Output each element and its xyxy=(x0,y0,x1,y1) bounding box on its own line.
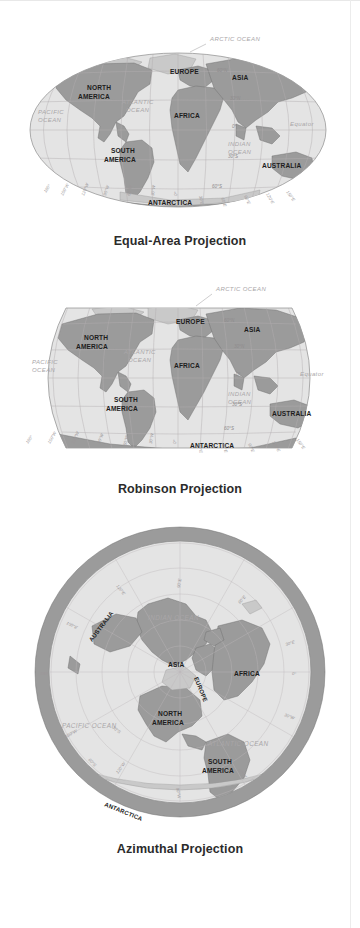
equator-label: Equator xyxy=(290,121,314,127)
latitude-label-30s: 30°S xyxy=(228,154,239,159)
africa-label: AFRICA xyxy=(234,670,260,677)
azimuthal-map[interactable]: INDIAN OCEAN PACIFIC OCEAN ATLANTIC OCEA… xyxy=(0,520,360,840)
indian-ocean-label: INDIAN OCEAN xyxy=(148,614,199,621)
atlantic-ocean-label-line2: OCEAN xyxy=(128,357,152,363)
arctic-ocean-leader xyxy=(190,44,206,52)
latitude-label-0: 0° xyxy=(236,372,241,377)
australia-label: AUSTRALIA xyxy=(262,162,302,169)
atlantic-ocean-label: ATLANTIC OCEAN xyxy=(207,740,269,747)
robinson-map[interactable]: ARCTIC OCEAN PACIFIC OCEAN ATLANTIC OCEA… xyxy=(0,278,360,478)
new-zealand-shape xyxy=(318,180,330,190)
pacific-ocean-label: PACIFIC OCEAN xyxy=(62,722,116,729)
south-america-label-line2: AMERICA xyxy=(104,156,136,163)
longitude-label-30e: 30°E xyxy=(197,443,204,453)
south-america-label-line2: AMERICA xyxy=(202,767,234,774)
north-america-label-line1: NORTH xyxy=(87,84,111,91)
panel-azimuthal-projection: INDIAN OCEAN PACIFIC OCEAN ATLANTIC OCEA… xyxy=(0,520,360,856)
top-divider xyxy=(0,0,360,1)
asia-label: ASIA xyxy=(244,326,260,333)
equal-area-map[interactable]: ARCTIC OCEAN PACIFIC OCEAN ATLANTIC OCEA… xyxy=(0,30,360,230)
pacific-ocean-label-line1: PACIFIC xyxy=(32,359,58,365)
latitude-label-30s: 30°S xyxy=(232,402,243,407)
indian-ocean-label-line1: INDIAN xyxy=(228,391,251,397)
north-america-label-line1: NORTH xyxy=(84,334,108,341)
panel-equal-area-projection: ARCTIC OCEAN PACIFIC OCEAN ATLANTIC OCEA… xyxy=(0,30,360,248)
indian-ocean-label-line1: INDIAN xyxy=(228,141,251,147)
pacific-ocean-label-line1: PACIFIC xyxy=(38,109,64,115)
equal-area-figure: ARCTIC OCEAN PACIFIC OCEAN ATLANTIC OCEA… xyxy=(0,30,360,248)
africa-label: AFRICA xyxy=(174,362,200,369)
new-zealand-shape xyxy=(314,428,326,438)
atlantic-ocean-label-line2: OCEAN xyxy=(126,107,150,113)
south-america-label-line1: SOUTH xyxy=(114,396,138,403)
figure-page: ARCTIC OCEAN PACIFIC OCEAN ATLANTIC OCEA… xyxy=(0,0,360,928)
longitude-label-120e: 120°E xyxy=(265,192,275,205)
australia-label: AUSTRALIA xyxy=(272,410,312,417)
latitude-label-0: 0° xyxy=(232,124,237,129)
longitude-label-150w: 150°W xyxy=(59,182,70,197)
north-america-label-line2: AMERICA xyxy=(152,719,184,726)
latitude-label-60n: 60°N xyxy=(224,318,235,323)
panel-robinson-projection: ARCTIC OCEAN PACIFIC OCEAN ATLANTIC OCEA… xyxy=(0,278,360,496)
south-america-label-line2: AMERICA xyxy=(106,405,138,412)
europe-label: EUROPE xyxy=(170,68,199,75)
africa-label: AFRICA xyxy=(174,112,200,119)
asia-label: ASIA xyxy=(168,661,184,668)
arctic-ocean-leader xyxy=(196,294,212,306)
north-america-label-line1: NORTH xyxy=(158,710,182,717)
asia-label: ASIA xyxy=(232,74,248,81)
pacific-ocean-label-line2: OCEAN xyxy=(38,117,62,123)
longitude-label-180: 180° xyxy=(43,183,52,193)
europe-label: EUROPE xyxy=(176,318,205,325)
pacific-ocean-label-line2: OCEAN xyxy=(32,367,56,373)
longitude-label-0: 0° xyxy=(173,191,178,196)
arctic-ocean-label: ARCTIC OCEAN xyxy=(215,286,266,292)
north-america-label-line2: AMERICA xyxy=(76,343,108,350)
south-america-label-line1: SOUTH xyxy=(208,758,232,765)
latitude-label-60n: 60°N xyxy=(217,68,228,73)
atlantic-ocean-label-line1: ATLANTIC xyxy=(121,99,154,105)
longitude-label-0: 0° xyxy=(292,671,296,676)
equator-label: Equator xyxy=(300,371,324,377)
longitude-label-150e: 150°E xyxy=(295,438,306,451)
azimuthal-caption: Azimuthal Projection xyxy=(0,842,360,856)
equal-area-caption: Equal-Area Projection xyxy=(0,234,360,248)
azimuthal-figure: INDIAN OCEAN PACIFIC OCEAN ATLANTIC OCEA… xyxy=(0,520,360,856)
longitude-label-150w: 150°W xyxy=(47,430,58,445)
latitude-label-60s: 60°S xyxy=(212,184,223,189)
robinson-caption: Robinson Projection xyxy=(0,482,360,496)
atlantic-ocean-label-line1: ATLANTIC xyxy=(123,349,156,355)
latitude-label-30n: 30°N xyxy=(234,344,245,349)
longitude-label-150e: 150°E xyxy=(285,190,296,203)
south-america-label-line1: SOUTH xyxy=(111,147,135,154)
arctic-ocean-label: ARCTIC OCEAN xyxy=(209,36,260,42)
latitude-label-60s: 60°S xyxy=(224,426,235,431)
robinson-figure: ARCTIC OCEAN PACIFIC OCEAN ATLANTIC OCEA… xyxy=(0,278,360,496)
latitude-label-30n: 30°N xyxy=(230,96,241,101)
north-america-label-line2: AMERICA xyxy=(78,93,110,100)
antarctica-label: ANTARCTICA xyxy=(148,199,192,206)
longitude-label-0: 0° xyxy=(172,439,177,444)
longitude-label-180: 180° xyxy=(25,434,34,444)
longitude-label-180: 180° xyxy=(40,671,49,676)
